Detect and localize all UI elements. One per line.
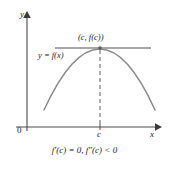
y-axis-label: y — [20, 10, 24, 19]
function-label: y = f(x) — [38, 51, 64, 60]
x-axis-label: x — [150, 130, 154, 139]
x-axis-arrowhead — [155, 123, 162, 131]
maximum-point-label: (c, f(c)) — [78, 33, 103, 42]
x-tick-label-c: c — [97, 130, 101, 139]
y-axis-arrowhead — [23, 11, 31, 18]
calculus-figure: y x 0 c (c, f(c)) y = f(x) f′(c) = 0, f″… — [0, 0, 169, 171]
origin-label: 0 — [17, 126, 22, 135]
derivative-condition-label: f′(c) = 0, f″(c) < 0 — [0, 146, 169, 155]
vertex-point-marker — [98, 46, 102, 50]
